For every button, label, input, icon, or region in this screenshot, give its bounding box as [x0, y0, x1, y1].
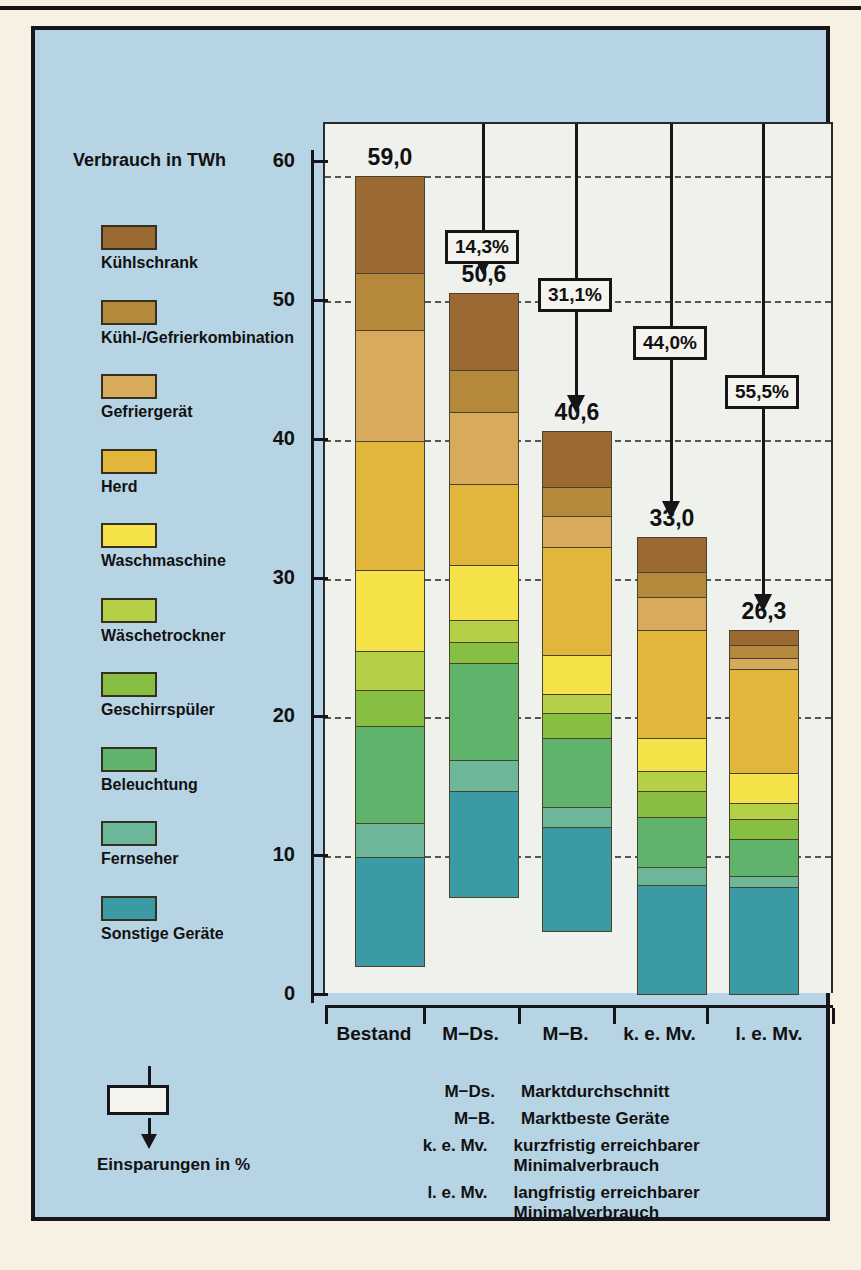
legend-item: Sonstige Geräte: [101, 896, 224, 943]
legend-label: Wäschetrockner: [101, 627, 226, 645]
legend-label: Kühl-/Gefrierkombination: [101, 329, 294, 347]
x-axis-separator: [423, 1008, 426, 1024]
bar-segment: [449, 620, 519, 642]
bar-segment: [355, 176, 425, 273]
y-axis-tick: [313, 160, 328, 163]
bar-segment: [729, 658, 799, 669]
savings-arrowhead-icon: [662, 501, 680, 519]
bar-segment: [729, 669, 799, 773]
x-axis-label: k. e. Mv.: [623, 1023, 696, 1045]
legend-swatch: [101, 225, 157, 250]
bar-segment: [729, 819, 799, 840]
bar-segment: [355, 823, 425, 858]
legend-label: Fernseher: [101, 850, 178, 868]
legend-label: Herd: [101, 478, 157, 496]
y-axis-tick-label: 30: [273, 565, 295, 588]
legend-swatch: [101, 523, 157, 548]
legend-item: Geschirrspüler: [101, 672, 215, 719]
abbreviation-value: kurzfristig erreichbarer Minimalverbrauc…: [514, 1136, 826, 1176]
bar-segment: [449, 663, 519, 760]
legend-label: Sonstige Geräte: [101, 925, 224, 943]
bar-segment: [542, 807, 612, 826]
abbreviation-key: M−Ds.: [390, 1082, 495, 1102]
bar-segment: [355, 330, 425, 441]
y-axis-tick-label: 0: [284, 982, 295, 1005]
legend-swatch: [101, 374, 157, 399]
bar-segment: [637, 738, 707, 771]
legend-label: Gefriergerät: [101, 403, 193, 421]
bar-segment: [449, 412, 519, 484]
y-axis-tick: [313, 993, 328, 996]
bar-segment: [637, 817, 707, 867]
bar-segment: [449, 791, 519, 898]
x-axis-separator: [832, 1008, 835, 1024]
bar-segment: [449, 565, 519, 621]
savings-arrow-line: [762, 124, 765, 594]
bar-segment: [542, 713, 612, 738]
legend-item: Wäschetrockner: [101, 598, 226, 645]
x-axis-separator: [613, 1008, 616, 1024]
legend-swatch: [101, 598, 157, 623]
bar-segment: [449, 293, 519, 371]
bar-segment: [729, 630, 799, 645]
bar-segment: [449, 484, 519, 565]
bar-3: [542, 431, 612, 995]
legend-swatch: [101, 896, 157, 921]
bar-segment: [542, 487, 612, 516]
legend-item: Gefriergerät: [101, 374, 193, 421]
savings-arrow-line: [670, 124, 673, 501]
abbreviation-key: l. e. Mv.: [390, 1183, 488, 1223]
legend-swatch: [101, 821, 157, 846]
y-axis-tick-label: 10: [273, 843, 295, 866]
legend-swatch: [101, 672, 157, 697]
savings-key-label: Einsparungen in %: [97, 1155, 307, 1175]
bar-segment: [355, 441, 425, 570]
abbreviation-value: Marktbeste Geräte: [521, 1109, 669, 1129]
y-axis-tick: [313, 854, 328, 857]
bar-segment: [637, 791, 707, 817]
y-axis-title: Verbrauch in TWh: [73, 150, 226, 171]
y-axis-tick-label: 20: [273, 704, 295, 727]
bar-segment: [637, 771, 707, 790]
legend-item: Kühl-/Gefrierkombination: [101, 300, 294, 347]
bar-segment: [729, 645, 799, 657]
bar-segment: [355, 273, 425, 330]
savings-callout: 44,0%: [633, 326, 707, 360]
y-axis-tick-label: 60: [273, 149, 295, 172]
bar-segment: [449, 642, 519, 663]
legend-item: Fernseher: [101, 821, 178, 868]
legend-label: Geschirrspüler: [101, 701, 215, 719]
legend-item: Beleuchtung: [101, 747, 198, 794]
bar-segment: [729, 839, 799, 875]
bar-segment: [542, 431, 612, 487]
y-axis-tick: [313, 438, 328, 441]
legend-swatch: [101, 449, 157, 474]
chart-page: Verbrauch in TWh KühlschrankKühl-/Gefrie…: [0, 0, 861, 1270]
x-axis-label: M−B.: [543, 1023, 589, 1045]
bar-segment: [449, 370, 519, 412]
legend-swatch: [101, 747, 157, 772]
bar-5: [729, 630, 799, 995]
bar-total-label: 59,0: [355, 144, 425, 171]
legend-label: Waschmaschine: [101, 552, 226, 570]
bar-segment: [542, 738, 612, 807]
bar-segment: [637, 630, 707, 738]
abbreviation-key: k. e. Mv.: [390, 1136, 488, 1176]
x-axis-label: l. e. Mv.: [735, 1023, 802, 1045]
bar-segment: [355, 651, 425, 690]
y-axis-tick: [313, 577, 328, 580]
bar-segment: [542, 694, 612, 713]
bar-4: [637, 537, 707, 995]
abbreviation-value: langfristig erreichbarer Minimalverbrauc…: [514, 1183, 826, 1223]
abbreviation-value: Marktdurchschnitt: [521, 1082, 669, 1102]
bar-segment: [542, 827, 612, 933]
savings-key-arrowhead-icon: [141, 1134, 157, 1149]
bar-segment: [355, 726, 425, 823]
legend-item: Waschmaschine: [101, 523, 226, 570]
legend-item: Herd: [101, 449, 157, 496]
bar-segment: [637, 597, 707, 630]
bar-segment: [729, 887, 799, 995]
y-axis-tick-label: 40: [273, 426, 295, 449]
series-legend: KühlschrankKühl-/GefrierkombinationGefri…: [101, 225, 291, 970]
x-axis-label: Bestand: [337, 1023, 412, 1045]
